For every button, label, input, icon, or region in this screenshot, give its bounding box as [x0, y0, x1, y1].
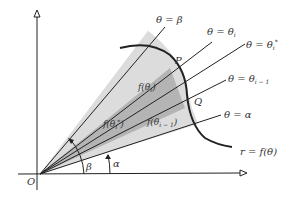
ray-label-beta: θ = β: [156, 14, 183, 25]
curve-label: r = f(θ): [240, 146, 277, 157]
beta-label: β: [85, 161, 92, 172]
point-Q-label: Q: [194, 96, 202, 107]
ray-label-theta-i-minus-1: θ = θi − 1: [228, 73, 269, 85]
alpha-arc-arrow-icon: [105, 154, 111, 159]
label-f-theta-i-star: f(θi*): [102, 118, 124, 130]
ray-label-theta-i-star: θ = θi*: [246, 38, 278, 51]
x-axis: [18, 173, 240, 174]
alpha-label: α: [113, 158, 120, 169]
label-f-theta-i: f(θi): [137, 82, 156, 93]
y-axis-arrow-icon: [34, 10, 40, 17]
ray-label-theta-i: θ = θi: [207, 26, 236, 38]
point-P-label: P: [174, 55, 182, 66]
origin-label: O: [27, 176, 35, 187]
polar-diagram: O β α θ = β θ = θi θ = θi* θ = θi − 1 θ …: [0, 0, 297, 201]
ray-label-alpha: θ = α: [224, 109, 252, 120]
x-axis-arrow-icon: [240, 170, 247, 176]
